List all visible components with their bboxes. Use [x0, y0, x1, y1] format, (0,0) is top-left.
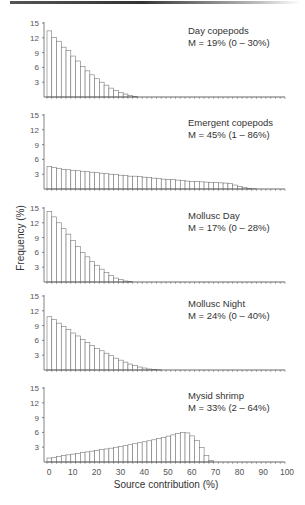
histogram-bar: [99, 351, 104, 370]
histogram-bar: [128, 364, 133, 370]
histogram-bar: [66, 234, 71, 282]
panel-median-annotation: M = 17% (0 – 28%): [188, 222, 270, 233]
histogram-bar: [57, 457, 62, 462]
histogram-bar: [90, 75, 95, 97]
panel-title: Mollusc Night: [188, 298, 245, 309]
panel-title: Mysid shrimp: [188, 390, 244, 401]
histogram-bar: [95, 450, 100, 462]
histogram-bar: [114, 175, 119, 189]
y-tick-label: 15: [30, 111, 39, 120]
histogram-bar: [57, 223, 62, 282]
x-tick-label: 30: [116, 467, 126, 477]
histogram-bar: [109, 448, 114, 462]
histogram-bar: [114, 447, 119, 462]
x-tick-label: 80: [235, 467, 245, 477]
histogram-bar: [114, 278, 119, 282]
y-tick-label: 9: [35, 322, 40, 331]
histogram-bar: [61, 47, 66, 97]
histogram-bar: [66, 455, 71, 462]
panel-median-annotation: M = 33% (2 – 64%): [188, 402, 270, 413]
histogram-bar: [61, 229, 66, 282]
histogram-bar: [142, 177, 147, 189]
y-tick-label: 9: [35, 234, 40, 243]
y-axis-title: Frequency (%): [15, 205, 26, 271]
histogram-bar: [199, 182, 204, 189]
histogram-bar: [118, 175, 123, 189]
histogram-bar: [109, 174, 114, 189]
histogram-bar: [80, 252, 85, 282]
panel-day-copepods: 3691215Day copepodsM = 19% (0 – 30%): [30, 19, 285, 99]
histogram-bar: [80, 66, 85, 97]
histogram-bar: [80, 339, 85, 370]
y-tick-label: 12: [30, 307, 39, 316]
x-axis: 0102030405060708090100: [47, 467, 295, 477]
panel-mollusc-night: 3691215Mollusc NightM = 24% (0 – 40%): [30, 292, 285, 372]
histogram-bar: [195, 182, 200, 189]
histogram-bar: [85, 342, 90, 370]
x-tick-label: 20: [92, 467, 102, 477]
panel-mollusc-day: 3691215Mollusc DayM = 17% (0 – 28%): [30, 204, 285, 284]
histogram-bar: [156, 179, 161, 189]
y-tick-label: 6: [35, 63, 40, 72]
histogram-bar: [104, 174, 109, 189]
histogram-bar: [133, 444, 138, 462]
histogram-bar: [61, 327, 66, 370]
histogram-bar: [52, 167, 57, 189]
histogram-bar: [76, 61, 81, 97]
panel-mysid-shrimp: 3691215Mysid shrimpM = 33% (2 – 64%): [30, 384, 285, 464]
x-tick-label: 50: [163, 467, 173, 477]
histogram-bar: [176, 180, 181, 189]
histogram-bar: [123, 176, 128, 189]
histogram-bar: [171, 180, 176, 189]
histogram-bar: [171, 435, 176, 462]
y-tick-label: 12: [30, 126, 39, 135]
y-tick-label: 12: [30, 399, 39, 408]
histogram-bar: [85, 452, 90, 462]
y-tick-label: 3: [35, 78, 40, 87]
histogram-bar: [71, 170, 76, 189]
histogram-bar: [71, 333, 76, 370]
histogram-bar: [123, 362, 128, 370]
histogram-bar: [47, 211, 52, 282]
y-tick-label: 15: [30, 292, 39, 301]
histogram-bar: [109, 88, 114, 97]
histogram-bar: [137, 443, 142, 462]
histogram-bar: [104, 273, 109, 282]
histogram-bar: [61, 169, 66, 189]
histogram-bar: [76, 453, 81, 462]
panel-median-annotation: M = 24% (0 – 40%): [188, 310, 270, 321]
y-tick-label: 3: [35, 351, 40, 360]
y-tick-label: 15: [30, 384, 39, 393]
histogram-bar: [57, 41, 62, 97]
histogram-bar: [80, 171, 85, 189]
x-tick-label: 60: [187, 467, 197, 477]
histogram-bar: [85, 71, 90, 97]
histogram-bar: [99, 269, 104, 282]
histogram-bar: [204, 456, 209, 462]
histogram-bar: [199, 448, 204, 462]
histogram-bar: [52, 457, 57, 462]
y-tick-label: 9: [35, 414, 40, 423]
histogram-bar: [80, 453, 85, 462]
histogram-bar: [95, 265, 100, 282]
histogram-bar: [114, 358, 119, 370]
histogram-bar: [204, 182, 209, 189]
histogram-bar: [180, 181, 185, 189]
x-axis-title: Source contribution (%): [114, 479, 219, 490]
histogram-bar: [90, 451, 95, 462]
histogram-bar: [123, 446, 128, 462]
histogram-bar: [52, 37, 57, 97]
histogram-bar: [166, 179, 171, 189]
histogram-bar: [52, 320, 57, 370]
histogram-bar: [85, 172, 90, 189]
histogram-bar: [114, 91, 119, 97]
histogram-bar: [218, 183, 223, 189]
y-tick-label: 9: [35, 141, 40, 150]
histogram-bar: [147, 441, 152, 462]
histogram-bar: [152, 178, 157, 189]
x-tick-label: 0: [47, 467, 52, 477]
y-tick-label: 6: [35, 336, 40, 345]
y-tick-label: 9: [35, 49, 40, 58]
histogram-bar: [104, 85, 109, 97]
histogram-bar: [99, 450, 104, 462]
